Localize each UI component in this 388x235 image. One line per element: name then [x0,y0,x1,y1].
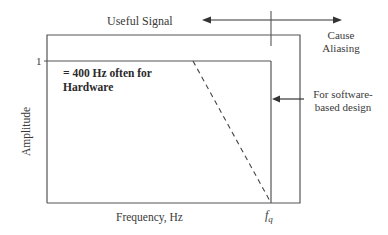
rolloff-dashed-line [193,61,271,203]
y-axis-label: Amplitude [20,102,33,162]
software-note-line1: For software- [306,88,380,101]
arrow-right-head-icon [333,17,342,24]
cause-aliasing-line1: Cause [316,29,366,42]
hardware-note-line2: Hardware [63,81,152,94]
hardware-note-line1: = 400 Hz often for [63,67,152,80]
software-arrow-head-icon [272,96,280,103]
arrow-left-head-icon [202,17,211,24]
hardware-note: = 400 Hz often for Hardware [63,67,152,94]
software-note: For software- based design [306,88,380,114]
software-note-line2: based design [306,101,380,114]
amplitude-one-label: 1 [36,55,42,68]
fq-label-sub: q [268,214,273,224]
useful-signal-label: Useful Signal [107,15,173,28]
x-axis-label: Frequency, Hz [116,211,183,224]
cause-aliasing-line2: Aliasing [316,42,366,55]
cause-aliasing-label: Cause Aliasing [316,29,366,55]
outer-box [47,35,300,203]
fq-label: fq [265,209,273,226]
